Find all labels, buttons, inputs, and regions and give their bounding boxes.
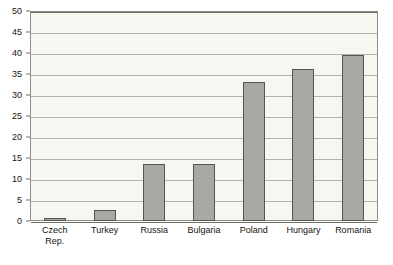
y-tick-label: 0: [17, 217, 22, 226]
bars-layer: [30, 11, 378, 221]
x-tick-label: Hungary: [286, 225, 320, 236]
x-tick-label-line: Poland: [240, 225, 268, 235]
x-tick-label: Russia: [141, 225, 169, 236]
y-tick-label: 30: [12, 91, 22, 100]
bar: [243, 82, 265, 221]
bar-chart: 05101520253035404550 CzechRep.TurkeyRuss…: [0, 0, 393, 265]
bar: [292, 69, 314, 221]
y-tick-label: 50: [12, 7, 22, 16]
x-tick-label-line: Bulgaria: [187, 225, 220, 235]
y-tick-label: 5: [17, 196, 22, 205]
x-tick-label: Poland: [240, 225, 268, 236]
x-tick-label-line: Romania: [335, 225, 371, 235]
y-tick-label: 10: [12, 175, 22, 184]
y-tick-label: 35: [12, 70, 22, 79]
x-tick-label-line: Turkey: [91, 225, 118, 235]
x-tick-label-line: Rep.: [42, 236, 68, 247]
y-axis: 05101520253035404550: [0, 0, 30, 232]
y-tick-label: 25: [12, 112, 22, 121]
bar: [44, 218, 66, 221]
bar: [193, 164, 215, 221]
y-tick-label: 20: [12, 133, 22, 142]
y-tick-label: 45: [12, 28, 22, 37]
bar: [143, 164, 165, 221]
x-tick-label-line: Czech: [42, 225, 68, 235]
x-axis: CzechRep.TurkeyRussiaBulgariaPolandHunga…: [30, 225, 378, 265]
y-tick-label: 40: [12, 49, 22, 58]
x-tick-label: Bulgaria: [187, 225, 220, 236]
x-tick-label: CzechRep.: [42, 225, 68, 247]
x-tick-label: Turkey: [91, 225, 118, 236]
bar: [94, 210, 116, 221]
x-tick-label-line: Russia: [141, 225, 169, 235]
gridline: [31, 222, 377, 223]
y-tick-label: 15: [12, 154, 22, 163]
x-tick-label: Romania: [335, 225, 371, 236]
bar: [342, 55, 364, 221]
x-tick-label-line: Hungary: [286, 225, 320, 235]
